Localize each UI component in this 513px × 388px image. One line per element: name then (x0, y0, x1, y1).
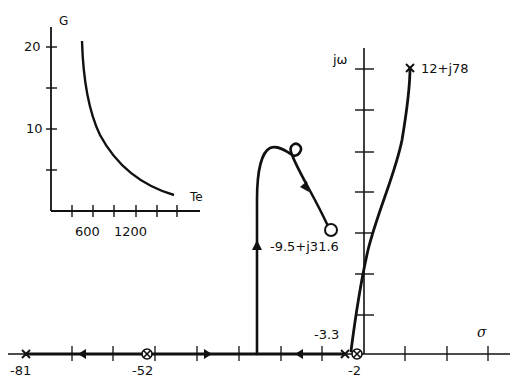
label-complex-zero: -9.5+j31.6 (270, 240, 339, 253)
label-neg2: -2 (348, 364, 361, 377)
label-complex-pole: 12+j78 (421, 62, 469, 75)
direction-arrows (78, 181, 309, 359)
zero-marker-neg2 (352, 349, 362, 359)
label-neg81: -81 (10, 364, 31, 377)
sigma-axis-label: σ (477, 325, 487, 339)
inset-y-tick-20: 20 (24, 40, 41, 53)
label-neg52: -52 (132, 364, 153, 377)
jw-axis-label: jω (333, 53, 348, 66)
root-locus-diagram (0, 0, 513, 388)
inset-y-tick-10: 10 (26, 122, 43, 135)
zero-marker-neg52 (142, 349, 152, 359)
arrow-right-1 (204, 349, 212, 359)
arrow-up (252, 240, 262, 250)
inset-x-tick-1200: 1200 (114, 225, 147, 238)
arrow-left-1 (78, 349, 86, 359)
zero-marker-complex (325, 224, 337, 236)
main-axes (8, 48, 510, 361)
arrow-left-2 (295, 349, 303, 359)
inset-y-axis-label: G (59, 15, 68, 27)
gain-curve (82, 41, 174, 195)
inset-plot (46, 27, 200, 217)
inset-x-axis-label: Te (190, 191, 203, 203)
inset-x-tick-600: 600 (75, 225, 100, 238)
label-neg3-3: -3.3 (314, 328, 339, 341)
